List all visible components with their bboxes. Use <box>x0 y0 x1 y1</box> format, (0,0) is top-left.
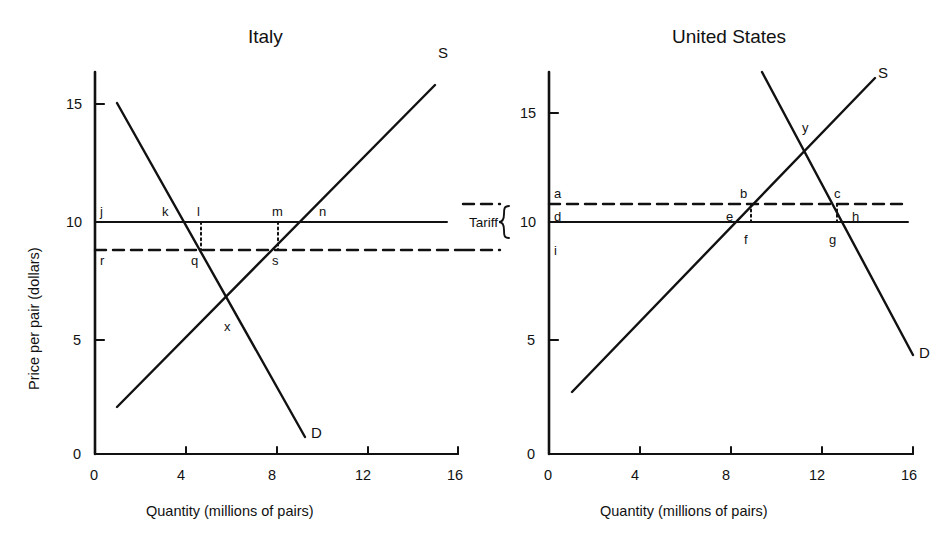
italy-supply-curve <box>117 85 435 407</box>
us-demand-curve <box>762 72 913 355</box>
plot-vector-layer <box>0 0 950 544</box>
tariff-brace <box>499 206 509 238</box>
figure-canvas: Italy Price per pair (dollars) Quantity … <box>0 0 950 544</box>
italy-demand-curve <box>117 103 305 437</box>
italy-axes <box>95 72 458 454</box>
us-axes <box>549 72 913 454</box>
us-supply-curve <box>572 78 875 392</box>
